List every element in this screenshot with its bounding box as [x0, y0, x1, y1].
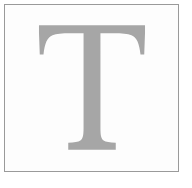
letter-t-glyph [38, 25, 146, 151]
border-frame: T [4, 4, 179, 172]
glyph-container: T [5, 5, 178, 171]
letter-t-path [38, 25, 144, 150]
image-canvas: T [0, 0, 192, 188]
